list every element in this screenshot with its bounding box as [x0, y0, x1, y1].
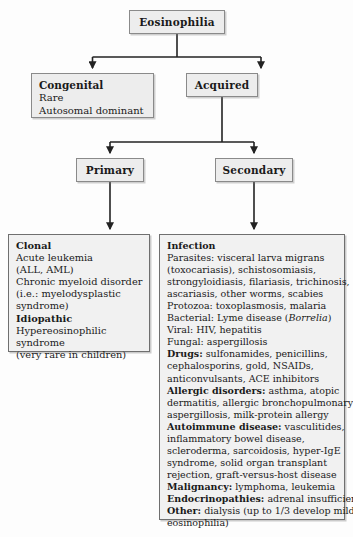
node-acquired[interactable]: Acquired	[186, 73, 258, 97]
detail-line-label: Autoimmune disease:	[167, 421, 282, 432]
detail-line: Acute leukemia	[16, 252, 143, 264]
detail-line: Endocrinopathies: adrenal insufficiency	[167, 493, 338, 505]
detail-line: Drugs: sulfonamides, penicillins,	[167, 348, 338, 360]
detail-line: Allergic disorders: asthma, atopic	[167, 385, 338, 397]
detail-line: Autoimmune disease: vasculitides,	[167, 421, 338, 433]
detail-line: Chronic myeloid disorder	[16, 276, 143, 288]
detail-line: strongyloidiasis, filariasis, trichinosi…	[167, 276, 338, 288]
detail-line: dermatitis, allergic bronchopulmonary	[167, 397, 338, 409]
node-primary-label: Primary	[86, 164, 134, 176]
detail-line: Parasites: visceral larva migrans	[167, 252, 338, 264]
detail-line: Fungal: aspergillosis	[167, 336, 338, 348]
detail-line: eosinophilia)	[167, 517, 338, 529]
detail-line-label: Malignancy:	[167, 481, 232, 492]
detail-line: syndrome	[16, 337, 143, 349]
detail-line-label: Other:	[167, 505, 201, 516]
detail-line-label: Infection	[167, 240, 216, 251]
detail-line-label: Endocrinopathies:	[167, 493, 264, 504]
detail-line: Other: dialysis (up to 1/3 develop mild	[167, 505, 338, 517]
node-congenital-label: Congenital	[39, 79, 146, 92]
detail-line: Infection	[167, 240, 338, 252]
detail-line: (toxocariasis), schistosomiasis,	[167, 264, 338, 276]
node-congenital-line-2: Autosomal dominant	[39, 105, 146, 118]
detail-line: Idiopathic	[16, 313, 143, 325]
detail-line: (very rare in children)	[16, 349, 143, 361]
detail-line: scleroderma, sarcoidosis, hyper-IgE	[167, 445, 338, 457]
detail-line: syndrome, solid organ transplant	[167, 457, 338, 469]
detail-line: Viral: HIV, hepatitis	[167, 324, 338, 336]
node-primary[interactable]: Primary	[76, 158, 144, 182]
detail-line: Bacterial: Lyme disease (Borrelia)	[167, 312, 338, 324]
node-secondary-label: Secondary	[223, 164, 286, 176]
detail-line-label: Idiopathic	[16, 313, 72, 324]
detail-secondary-causes: InfectionParasites: visceral larva migra…	[159, 234, 345, 520]
node-congenital[interactable]: Congenital Rare Autosomal dominant	[31, 73, 154, 118]
detail-line: ascariasis, other worms, scabies	[167, 288, 338, 300]
detail-line: Hypereosinophilic	[16, 325, 143, 337]
detail-line-italic: Borrelia	[289, 312, 328, 323]
node-acquired-label: Acquired	[195, 79, 250, 91]
node-congenital-line-1: Rare	[39, 92, 146, 105]
detail-line: Protozoa: toxoplasmosis, malaria	[167, 300, 338, 312]
node-secondary[interactable]: Secondary	[215, 158, 293, 182]
detail-line-label: Clonal	[16, 240, 51, 251]
detail-line: inflammatory bowel disease,	[167, 433, 338, 445]
node-eosinophilia-label: Eosinophilia	[139, 16, 215, 28]
flowchart-canvas: Eosinophilia Congenital Rare Autosomal d…	[0, 0, 353, 537]
node-eosinophilia[interactable]: Eosinophilia	[129, 10, 225, 34]
detail-line: Malignancy: lymphoma, leukemia	[167, 481, 338, 493]
detail-line-label: Allergic disorders:	[167, 385, 265, 396]
detail-line: syndrome)	[16, 300, 143, 312]
detail-primary-causes: ClonalAcute leukemia(ALL, AML)Chronic my…	[8, 234, 150, 352]
detail-line: aspergillosis, milk-protein allergy	[167, 409, 338, 421]
detail-line: anticonvulsants, ACE inhibitors	[167, 373, 338, 385]
detail-line: (ALL, AML)	[16, 264, 143, 276]
detail-line: rejection, graft-versus-host disease	[167, 469, 338, 481]
detail-line: cephalosporins, gold, NSAIDs,	[167, 360, 338, 372]
detail-line-label: Drugs:	[167, 348, 203, 359]
detail-line: (i.e.: myelodysplastic	[16, 288, 143, 300]
detail-line: Clonal	[16, 240, 143, 252]
